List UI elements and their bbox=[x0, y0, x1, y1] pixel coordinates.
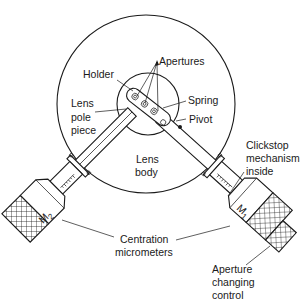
label-aperture-control-1: Aperture bbox=[212, 263, 252, 275]
label-aperture-control-2: changing bbox=[212, 276, 255, 288]
label-lens-pole-piece-1: Lens bbox=[71, 97, 94, 109]
label-lens-body-2: body bbox=[135, 166, 159, 178]
aperture-holder-diagram: Apertures Holder Lens pole piece Spring … bbox=[0, 0, 305, 305]
label-lens-pole-piece-3: piece bbox=[71, 124, 96, 136]
label-clickstop-2: mechanism bbox=[246, 152, 300, 164]
label-holder: Holder bbox=[83, 68, 114, 80]
label-centration-2: micrometers bbox=[115, 246, 173, 258]
label-aperture-control-3: control bbox=[212, 289, 244, 301]
label-centration-1: Centration bbox=[120, 233, 169, 245]
label-spring: Spring bbox=[188, 94, 219, 106]
label-lens-body-1: Lens bbox=[136, 153, 159, 165]
label-clickstop-1: Clickstop bbox=[246, 139, 289, 151]
label-clickstop-3: inside bbox=[246, 165, 274, 177]
pivot-point bbox=[178, 125, 182, 129]
label-pivot: Pivot bbox=[189, 113, 212, 125]
label-apertures: Apertures bbox=[159, 55, 205, 67]
label-lens-pole-piece-2: pole bbox=[71, 111, 91, 123]
